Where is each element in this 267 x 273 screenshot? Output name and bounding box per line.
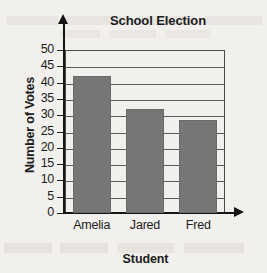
y-axis-tick-label: 0	[14, 205, 54, 219]
y-axis-tick-label: 15	[14, 156, 54, 170]
y-axis-tick-label: 35	[14, 91, 54, 105]
bar	[126, 109, 164, 213]
y-axis-tick-label: 50	[14, 42, 54, 56]
bar-chart: School Election Number of Votes Student …	[0, 0, 267, 273]
x-axis-arrow-icon	[234, 207, 244, 217]
x-axis-tick-label: Amelia	[65, 218, 118, 232]
x-axis-tick-label: Fred	[172, 218, 225, 232]
y-axis-tick	[57, 66, 64, 67]
y-axis-tick	[57, 83, 64, 84]
y-axis-tick	[57, 213, 64, 214]
y-axis-tick-label: 5	[14, 189, 54, 203]
y-axis-tick	[57, 197, 64, 198]
y-axis-tick	[57, 115, 64, 116]
y-axis-tick-label: 40	[14, 75, 54, 89]
y-axis-tick	[57, 148, 64, 149]
y-axis-tick-label: 20	[14, 140, 54, 154]
y-axis-tick-label: 25	[14, 124, 54, 138]
y-axis-tick	[57, 164, 64, 165]
y-axis-tick	[57, 180, 64, 181]
y-axis-tick	[57, 50, 64, 51]
y-axis-arrow-icon	[58, 14, 68, 24]
y-axis-tick	[57, 99, 64, 100]
y-axis-tick-label: 30	[14, 107, 54, 121]
x-axis-tick-label: Jared	[118, 218, 171, 232]
x-axis-title: Student	[58, 252, 233, 266]
gridline	[66, 67, 224, 68]
y-axis-tick-label: 45	[14, 58, 54, 72]
y-axis-tick	[57, 132, 64, 133]
y-axis-tick-label: 10	[14, 172, 54, 186]
bar	[73, 76, 111, 213]
bar	[179, 120, 217, 213]
chart-title: School Election	[88, 13, 228, 28]
